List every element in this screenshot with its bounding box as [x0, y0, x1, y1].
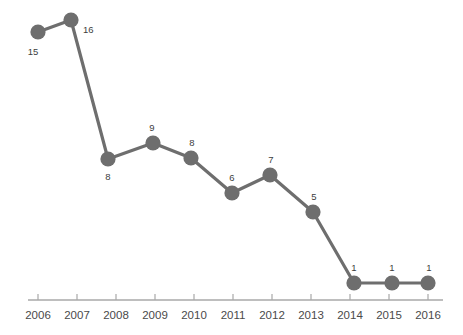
data-point-marker[interactable]: [145, 135, 160, 150]
data-point-label: 9: [149, 122, 154, 133]
x-axis-tick-label: 2006: [25, 309, 51, 321]
data-point-marker[interactable]: [100, 151, 115, 166]
data-point-label: 7: [268, 154, 273, 165]
data-point-marker[interactable]: [420, 275, 435, 290]
data-point-label: 8: [105, 171, 110, 182]
data-point-label: 1: [351, 262, 356, 273]
data-point-label: 5: [311, 191, 316, 202]
chart-canvas: 15 16 8 9 8 6 7 5 1 1 1 2006 2007 2008 2…: [0, 0, 463, 335]
series-line: [38, 20, 428, 283]
data-point-marker[interactable]: [224, 185, 239, 200]
data-point-marker[interactable]: [262, 167, 277, 182]
data-point-label: 8: [189, 137, 194, 148]
data-point-label: 6: [229, 172, 234, 183]
data-point-marker[interactable]: [346, 275, 361, 290]
data-point-label: 15: [28, 46, 39, 57]
data-point-label: 16: [83, 24, 94, 35]
data-point-marker[interactable]: [183, 150, 198, 165]
x-axis-tick-label: 2015: [376, 309, 402, 321]
x-axis-tick-label: 2010: [181, 309, 207, 321]
x-axis-tick-label: 2009: [142, 309, 168, 321]
x-axis-tick-label: 2007: [64, 309, 90, 321]
data-point-label: 1: [389, 262, 394, 273]
data-point-marker[interactable]: [305, 204, 320, 219]
x-axis-tick-label: 2013: [298, 309, 324, 321]
x-axis-tick-label: 2014: [337, 309, 363, 321]
data-point-marker[interactable]: [30, 24, 45, 39]
x-axis-tick-label: 2011: [221, 309, 246, 321]
line-chart: 15 16 8 9 8 6 7 5 1 1 1 2006 2007 2008 2…: [0, 0, 463, 335]
x-axis-tick-label: 2008: [103, 309, 129, 321]
data-point-marker[interactable]: [384, 275, 399, 290]
x-axis-tick-label: 2016: [415, 309, 441, 321]
x-axis-tick-label: 2012: [259, 309, 285, 321]
data-point-label: 1: [426, 262, 431, 273]
data-point-marker[interactable]: [63, 12, 78, 27]
